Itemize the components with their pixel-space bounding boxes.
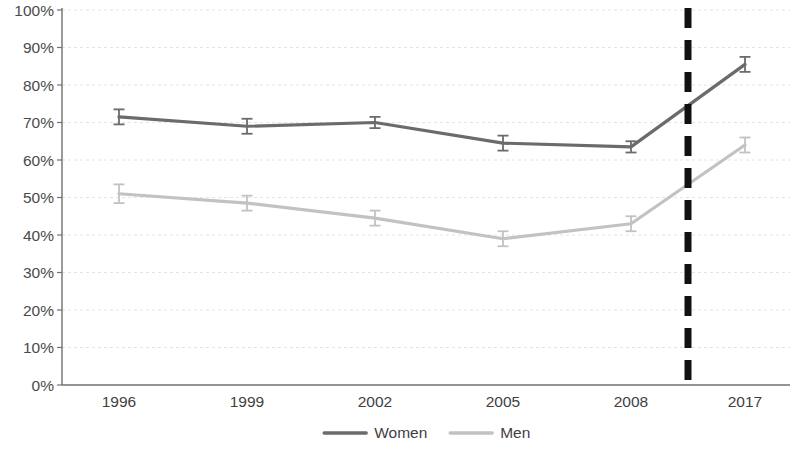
y-tick-label: 100% — [14, 2, 54, 19]
y-tick-label: 10% — [23, 339, 54, 356]
x-tick-label: 2002 — [358, 393, 392, 410]
x-tick-label: 2008 — [614, 393, 648, 410]
legend-label: Women — [374, 424, 427, 441]
y-tick-label: 60% — [23, 152, 54, 169]
x-tick-label: 1999 — [230, 393, 264, 410]
chart-canvas: 0%10%20%30%40%50%60%70%80%90%100% 199619… — [0, 0, 800, 453]
y-tick-label: 90% — [23, 39, 54, 56]
y-tick-label: 30% — [23, 264, 54, 281]
y-tick-label: 0% — [32, 377, 55, 394]
x-tick-label: 2017 — [728, 393, 762, 410]
y-tick-label: 50% — [23, 189, 54, 206]
legend-label: Men — [500, 424, 530, 441]
y-tick-label: 40% — [23, 227, 54, 244]
line-chart: 0%10%20%30%40%50%60%70%80%90%100% 199619… — [0, 0, 800, 453]
x-tick-label: 1996 — [102, 393, 136, 410]
y-tick-label: 20% — [23, 302, 54, 319]
y-tick-label: 80% — [23, 77, 54, 94]
x-tick-label: 2005 — [486, 393, 520, 410]
y-tick-label: 70% — [23, 114, 54, 131]
